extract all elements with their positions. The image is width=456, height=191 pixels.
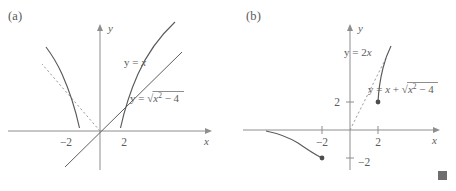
curve-label-asymptote-lhs-b: y = 2 (344, 46, 367, 58)
panel-b: (b) −2 2 2 −2 (228, 0, 456, 191)
x-axis-arrow-b (433, 127, 440, 133)
curve-label-line-a: y = x (124, 56, 146, 68)
curve-label-line-rhs-a: x (140, 56, 146, 68)
x-tick-label-2-b: 2 (375, 136, 381, 148)
curve-label-sqrt-tail-a: − 4 (162, 92, 180, 104)
y-axis-arrow-a (97, 24, 103, 31)
curve-label-asymptote-rhs-b: x (366, 46, 372, 58)
panel-a: (a) −2 2 y x y = x (0, 0, 228, 191)
curve-label-sqrt-lhs-a: y = (130, 92, 147, 104)
y-tick-label-minus2-b: −2 (358, 156, 370, 168)
panel-a-label: (a) (8, 9, 22, 24)
sqrt-curve-right-branch-a (121, 22, 176, 128)
panel-b-label: (b) (246, 9, 261, 24)
panel-a-plot: −2 2 y x y = x y = √x2 − 4 (0, 0, 228, 191)
y-axis-arrow-b (347, 24, 353, 31)
curve-label-asymptote-b: y = 2x (344, 46, 372, 58)
inverse-curve-lower-branch-b (266, 131, 322, 158)
y-tick-label-2-b: 2 (334, 96, 340, 108)
curve-label-inverse-tail-b: − 4 (417, 83, 435, 95)
end-of-proof-marker (438, 171, 447, 180)
x-axis-label-a: x (203, 135, 209, 147)
x-tick-label-2-a: 2 (121, 136, 127, 148)
point-2-2-b (376, 100, 381, 105)
x-tick-label-minus2-b: −2 (316, 136, 328, 148)
x-axis-label-b: x (431, 134, 437, 146)
curve-label-inverse-lhs-b: y = (368, 83, 385, 95)
curve-label-line-lhs-a: y = (124, 56, 141, 68)
y-axis-label-b: y (357, 22, 363, 34)
y-axis-label-a: y (107, 22, 113, 34)
curve-label-inverse-b: y = x + √x2 − 4 (368, 82, 434, 95)
x-tick-label-minus2-a: −2 (60, 136, 72, 148)
panel-b-plot: −2 2 2 −2 y x y = 2x y = x + √x2 − 4 (228, 0, 456, 191)
curve-label-sqrt-a: y = √x2 − 4 (130, 91, 180, 104)
curve-label-inverse-plus-b: + (390, 83, 402, 95)
x-axis-arrow-a (205, 128, 212, 134)
point-minus2-minus2-b (320, 156, 325, 161)
line-y-equals-x-a (65, 52, 182, 167)
figure-root: (a) −2 2 y x y = x (0, 0, 456, 191)
